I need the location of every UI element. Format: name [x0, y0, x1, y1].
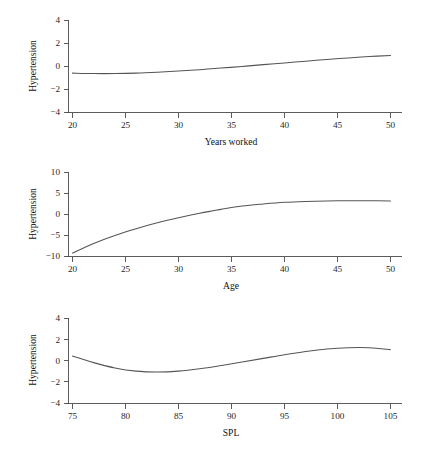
y-tick-label: −4: [50, 107, 60, 117]
x-tick-label: 25: [121, 120, 131, 130]
plot-age: 10 5 0 −5 −10 20 25 30 35 40 45: [0, 152, 423, 300]
x-tick-label: 90: [227, 411, 237, 421]
y-tick-label: 2: [55, 335, 60, 345]
y-tick-label: −5: [50, 230, 60, 240]
x-tick-label: 75: [68, 411, 78, 421]
y-axis-title: Hypertension: [27, 40, 38, 92]
panel-spl: 4 2 0 −2 −4 75 80 85 90 95 100: [0, 300, 423, 455]
x-tick-label: 35: [227, 120, 237, 130]
x-tick-label: 45: [333, 264, 343, 274]
data-curve-age: [73, 201, 391, 253]
x-tick-label: 80: [121, 411, 131, 421]
x-tick-label: 20: [68, 264, 78, 274]
panel-age: 10 5 0 −5 −10 20 25 30 35 40 45: [0, 152, 423, 300]
y-tick-label: 0: [55, 356, 60, 366]
x-tick-label: 50: [386, 264, 396, 274]
y-axis-title: Hypertension: [27, 334, 38, 386]
x-axis-title: Years worked: [205, 136, 258, 147]
y-axis-title: Hypertension: [27, 188, 38, 240]
x-axis-title: SPL: [223, 427, 240, 438]
x-tick-label: 40: [280, 120, 290, 130]
x-tick-label: 20: [68, 120, 78, 130]
y-tick-label: 0: [55, 61, 60, 71]
y-tick-label: 10: [51, 167, 61, 177]
y-tick-label: −4: [50, 398, 60, 408]
x-axis-group-1: 20 25 30 35 40 45 50: [66, 257, 402, 275]
x-tick-label: 30: [174, 120, 184, 130]
x-tick-label: 85: [174, 411, 184, 421]
multi-panel-figure: 4 2 0 −2 −4 20 25 30 35 40 45: [0, 0, 423, 455]
x-tick-label: 50: [386, 120, 396, 130]
y-tick-label: 0: [55, 209, 60, 219]
panel-years-worked: 4 2 0 −2 −4 20 25 30 35 40 45: [0, 0, 423, 152]
x-tick-label: 105: [384, 411, 398, 421]
x-tick-label: 40: [280, 264, 290, 274]
x-tick-label: 45: [333, 120, 343, 130]
x-tick-label: 25: [121, 264, 131, 274]
x-tick-label: 30: [174, 264, 184, 274]
data-curve-years-worked: [73, 55, 391, 73]
plot-spl: 4 2 0 −2 −4 75 80 85 90 95 100: [0, 300, 423, 455]
y-tick-label: −2: [50, 84, 60, 94]
x-tick-label: 100: [331, 411, 345, 421]
y-axis-group-1: 10 5 0 −5 −10: [46, 167, 69, 261]
y-axis-group-0: 4 2 0 −2 −4: [50, 15, 68, 117]
y-tick-label: 2: [55, 38, 60, 48]
plot-years-worked: 4 2 0 −2 −4 20 25 30 35 40 45: [0, 0, 423, 152]
y-tick-label: −10: [46, 251, 61, 261]
x-axis-group-2: 75 80 85 90 95 100 105: [66, 404, 402, 422]
y-tick-label: 4: [55, 313, 60, 323]
x-tick-label: 35: [227, 264, 237, 274]
data-curve-spl: [73, 348, 391, 372]
y-tick-label: −2: [50, 377, 60, 387]
x-axis-group-0: 20 25 30 35 40 45 50: [66, 113, 402, 131]
x-axis-title: Age: [223, 280, 239, 291]
y-tick-label: 4: [55, 15, 60, 25]
x-tick-label: 95: [280, 411, 290, 421]
y-axis-group-2: 4 2 0 −2 −4: [50, 313, 68, 408]
y-tick-label: 5: [55, 188, 60, 198]
